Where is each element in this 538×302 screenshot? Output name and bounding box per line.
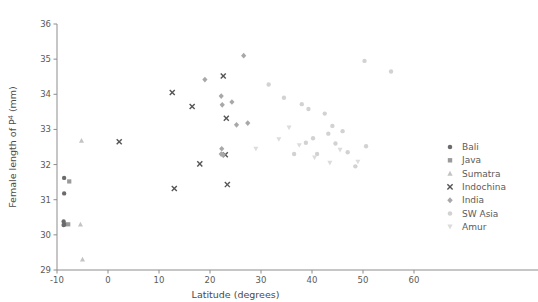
data-point	[78, 222, 83, 227]
legend-item-amur[interactable]: Amur	[447, 222, 486, 232]
data-point	[241, 53, 246, 59]
chart-legend: BaliJavaSumatraIndochinaIndiaSW AsiaAmur	[447, 142, 506, 232]
y-tick-label: 29	[40, 265, 51, 275]
x-tick-label: -10	[50, 275, 64, 285]
data-point	[172, 186, 177, 191]
legend-marker-triangle-icon	[447, 171, 452, 176]
data-point	[224, 116, 229, 121]
y-tick-label: 33	[40, 124, 51, 134]
data-point	[62, 176, 66, 180]
axes-group: 2930313233343536-100102030405060Latitude…	[7, 19, 538, 300]
data-point	[190, 104, 195, 109]
y-axis-title-base: Female length of P	[7, 119, 18, 208]
series-bali	[61, 176, 67, 227]
data-point	[80, 257, 85, 262]
legend-label: Sumatra	[462, 169, 500, 179]
y-tick-label: 31	[40, 195, 51, 205]
y-axis-title-text: Female length of P4 (mm)	[7, 86, 18, 208]
legend-item-bali[interactable]: Bali	[448, 142, 479, 152]
data-point	[311, 136, 315, 140]
legend-marker-circle-icon	[448, 145, 453, 150]
legend-marker-square-icon	[448, 158, 452, 162]
data-point	[282, 96, 286, 100]
data-point	[338, 148, 343, 153]
series-sumatra	[78, 138, 85, 261]
data-point	[202, 77, 207, 83]
data-points-group	[61, 53, 393, 262]
data-point	[170, 90, 175, 95]
series-india	[202, 53, 250, 158]
data-point	[221, 73, 226, 78]
data-point	[355, 160, 360, 165]
legend-item-sw-asia[interactable]: SW Asia	[448, 209, 499, 219]
data-point	[292, 152, 296, 156]
data-point	[312, 155, 317, 160]
data-point	[340, 129, 344, 133]
data-point	[66, 222, 70, 226]
data-point	[117, 139, 122, 144]
y-tick-label: 34	[40, 89, 51, 99]
data-point	[245, 120, 250, 126]
data-point	[197, 161, 202, 166]
data-point	[327, 161, 332, 166]
scatter-plot-figure: 2930313233343536-100102030405060Latitude…	[0, 0, 538, 302]
legend-item-java[interactable]: Java	[448, 155, 481, 165]
legend-item-sumatra[interactable]: Sumatra	[447, 169, 500, 179]
data-point	[346, 150, 350, 154]
y-tick-label: 35	[40, 54, 51, 64]
data-point	[276, 137, 281, 142]
legend-label: India	[462, 195, 484, 205]
data-point	[330, 124, 334, 128]
legend-marker-diamond-icon	[447, 197, 452, 203]
legend-item-india[interactable]: India	[447, 195, 484, 205]
legend-label: Bali	[462, 142, 479, 152]
data-point	[225, 182, 230, 187]
data-point	[67, 179, 71, 183]
x-tick-label: 40	[307, 275, 318, 285]
data-point	[323, 111, 327, 115]
x-tick-label: 60	[409, 275, 420, 285]
data-point	[304, 141, 308, 145]
data-point	[300, 102, 304, 106]
data-point	[253, 147, 258, 152]
data-point	[362, 59, 366, 63]
data-point	[62, 191, 66, 195]
data-point	[219, 93, 224, 99]
legend-marker-circle-light-icon	[448, 211, 453, 216]
x-tick-label: 50	[358, 275, 369, 285]
series-indochina	[117, 73, 230, 190]
y-axis-title-unit: (mm)	[7, 86, 18, 115]
data-point	[353, 164, 357, 168]
x-axis-title: Latitude (degrees)	[192, 289, 280, 300]
x-tick-label: 30	[256, 275, 267, 285]
data-point	[333, 141, 337, 145]
y-tick-label: 32	[40, 160, 51, 170]
legend-label: SW Asia	[462, 209, 498, 219]
y-tick-label: 30	[40, 230, 51, 240]
data-point	[326, 131, 330, 135]
data-point	[389, 69, 393, 73]
data-point	[266, 82, 270, 86]
data-point	[234, 122, 239, 128]
series-java	[66, 179, 71, 226]
data-point	[220, 102, 225, 108]
x-tick-label: 0	[105, 275, 110, 285]
data-point	[297, 143, 302, 148]
legend-marker-cross-icon	[447, 184, 452, 189]
data-point	[306, 107, 310, 111]
legend-label: Java	[461, 155, 481, 165]
y-tick-label: 36	[40, 19, 51, 29]
data-point	[229, 99, 234, 105]
legend-marker-triangle-down-icon	[447, 225, 452, 230]
y-axis-title: Female length of P4 (mm)	[7, 86, 18, 208]
x-tick-label: 10	[154, 275, 165, 285]
legend-item-indochina[interactable]: Indochina	[447, 182, 506, 192]
data-point	[79, 138, 84, 143]
series-sw-asia	[266, 59, 393, 169]
data-point	[287, 126, 292, 131]
chart-canvas: 2930313233343536-100102030405060Latitude…	[0, 0, 538, 302]
data-point	[219, 146, 224, 152]
x-tick-label: 20	[205, 275, 216, 285]
data-point	[364, 144, 368, 148]
legend-label: Indochina	[462, 182, 506, 192]
